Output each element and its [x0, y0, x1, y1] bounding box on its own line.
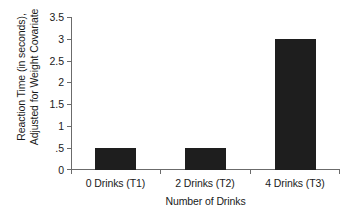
y-tick-label: 1 — [36, 121, 64, 132]
bars-layer — [71, 17, 340, 170]
y-tick-label: 1.5 — [36, 99, 64, 110]
bar-0-drinks-t1 — [95, 148, 136, 170]
y-tick-label: 2 — [36, 77, 64, 88]
bar-2-drinks-t2 — [185, 148, 226, 170]
y-tick-label: 2.5 — [36, 56, 64, 67]
plot-area — [71, 17, 340, 170]
y-tick-label: .5 — [36, 143, 64, 154]
y-tick-label: 3.5 — [36, 12, 64, 23]
y-axis-title-line-1: Reaction Time (in seconds), — [15, 13, 28, 140]
x-tick-label: 0 Drinks (T1) — [71, 177, 160, 190]
bar-4-drinks-t3 — [275, 39, 316, 170]
x-axis-tick-labels: 0 Drinks (T1) 2 Drinks (T2) 4 Drinks (T3… — [71, 177, 340, 191]
y-tick-label: 0 — [36, 165, 64, 176]
x-axis-tick — [250, 170, 251, 174]
bar-chart-figure: Reaction Time (in seconds), Adjusted for… — [0, 0, 363, 220]
x-tick-label: 4 Drinks (T3) — [250, 177, 340, 190]
y-axis-tick-labels: 3.5 3 2.5 2 1.5 1 .5 0 — [36, 0, 64, 220]
x-axis-tick — [160, 170, 161, 174]
x-axis-title: Number of Drinks — [71, 195, 340, 208]
y-tick-label: 3 — [36, 34, 64, 45]
x-axis-tick — [71, 170, 72, 174]
x-axis-tick — [339, 170, 340, 174]
x-tick-label: 2 Drinks (T2) — [160, 177, 250, 190]
